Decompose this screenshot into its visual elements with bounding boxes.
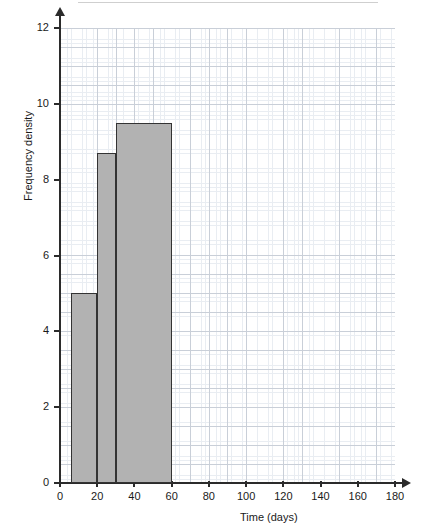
x-axis-tick-label: 0 xyxy=(40,491,80,502)
x-axis-tick-label: 160 xyxy=(338,491,378,502)
bars-layer xyxy=(60,28,395,483)
y-axis-tick xyxy=(54,406,60,408)
x-axis-tick xyxy=(320,481,322,487)
x-axis-tick-label: 180 xyxy=(375,491,415,502)
y-axis-line xyxy=(59,14,61,484)
y-axis-tick-label: 6 xyxy=(9,250,49,261)
y-axis-tick xyxy=(54,255,60,257)
histogram-bar xyxy=(97,153,116,483)
y-axis-tick xyxy=(54,330,60,332)
x-axis-tick-label: 120 xyxy=(263,491,303,502)
y-axis-tick-label: 12 xyxy=(9,22,49,33)
x-axis-arrow-icon xyxy=(402,478,411,488)
x-axis-tick-label: 40 xyxy=(114,491,154,502)
histogram-bar xyxy=(116,123,172,483)
y-axis-tick-label: 0 xyxy=(9,477,49,488)
y-axis-tick-label: 4 xyxy=(9,325,49,336)
y-axis-tick xyxy=(54,103,60,105)
x-axis-tick xyxy=(245,481,247,487)
histogram-bar xyxy=(71,293,97,483)
x-axis-tick-label: 140 xyxy=(301,491,341,502)
y-axis-tick-label: 2 xyxy=(9,401,49,412)
x-axis-tick-label: 100 xyxy=(226,491,266,502)
x-axis-tick xyxy=(208,481,210,487)
x-axis-title: Time (days) xyxy=(240,511,298,523)
x-axis-tick xyxy=(357,481,359,487)
y-axis-tick xyxy=(54,27,60,29)
y-axis-title: Frequency density xyxy=(22,66,34,246)
x-axis-tick xyxy=(59,481,61,487)
histogram-chart: 024681012020406080100120140160180 Freque… xyxy=(0,0,425,531)
x-axis-tick-label: 60 xyxy=(152,491,192,502)
y-axis-tick xyxy=(54,179,60,181)
x-axis-tick-label: 20 xyxy=(77,491,117,502)
x-axis-tick xyxy=(282,481,284,487)
scan-artifact-line xyxy=(78,2,378,3)
x-axis-tick-label: 80 xyxy=(189,491,229,502)
x-axis-tick xyxy=(394,481,396,487)
y-axis-arrow-icon xyxy=(55,7,65,16)
